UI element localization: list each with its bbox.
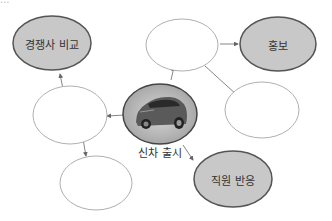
node-bottom-blank bbox=[60, 156, 132, 210]
label-center: 신차 출시 bbox=[128, 144, 192, 160]
cropped-header-text: ... bbox=[0, 0, 10, 5]
label-employee: 직원 반응 bbox=[194, 172, 272, 188]
node-left-blank bbox=[33, 86, 107, 144]
node-right-blank bbox=[225, 82, 299, 138]
mind-map bbox=[0, 0, 332, 221]
node-top-blank bbox=[146, 19, 218, 71]
arrow-top-to-right bbox=[205, 66, 237, 95]
label-competitor: 경쟁사 비교 bbox=[13, 36, 91, 52]
label-promotion: 홍보 bbox=[240, 37, 316, 53]
